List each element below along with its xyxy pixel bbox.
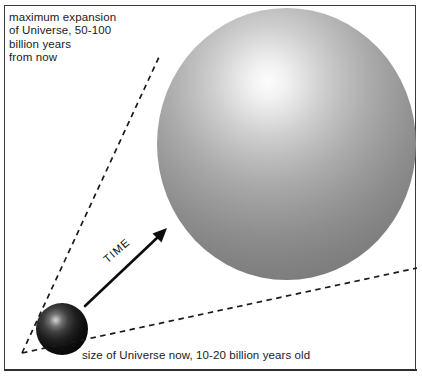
label-maximum-expansion: maximum expansion of Universe, 50-100 bi… <box>9 11 116 65</box>
cone-upper-dashed-line <box>22 57 159 353</box>
label-size-of-universe-now: size of Universe now, 10-20 billion year… <box>82 349 310 361</box>
cone-lower-dashed-line <box>22 268 417 353</box>
universe-expansion-figure: maximum expansion of Universe, 50-100 bi… <box>0 0 422 384</box>
